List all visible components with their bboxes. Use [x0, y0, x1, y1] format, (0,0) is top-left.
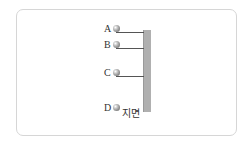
ball-d-icon	[113, 104, 120, 111]
rod-a	[116, 32, 144, 33]
vertical-pole	[143, 30, 151, 112]
ball-b-icon	[113, 41, 120, 48]
ball-c-icon	[113, 69, 120, 76]
ball-a-icon	[113, 25, 120, 32]
ball-b-label: B	[104, 40, 111, 50]
ball-d-label: D	[104, 103, 111, 113]
ground-label: 지면	[122, 109, 140, 119]
rod-c	[116, 76, 144, 77]
rod-b	[116, 48, 144, 49]
ball-c-label: C	[104, 68, 111, 78]
ball-a-label: A	[104, 24, 111, 34]
